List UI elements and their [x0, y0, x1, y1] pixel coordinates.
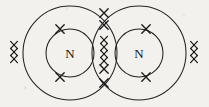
- left-atom-top-electron: [56, 25, 64, 33]
- n2-electron-shell-figure: N N: [0, 0, 209, 107]
- right-atom-outer-edge-electrons: [191, 41, 198, 62]
- right-atom-label: N: [134, 46, 144, 61]
- left-atom-outer-edge-electrons: [11, 41, 18, 62]
- diagram-canvas: N N: [0, 0, 209, 107]
- left-atom-bottom-electron: [56, 73, 64, 81]
- left-atom-label: N: [65, 46, 75, 61]
